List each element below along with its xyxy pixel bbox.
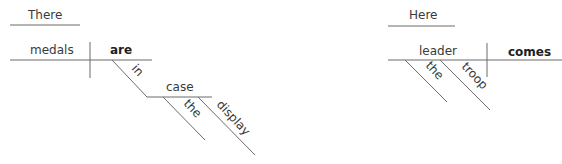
diagram-2: Here leader comes the troop — [388, 8, 562, 110]
object-word: case — [166, 80, 194, 94]
subject-word: leader — [419, 44, 457, 58]
verb-word: comes — [508, 45, 551, 59]
subject-word: medals — [30, 43, 74, 57]
modifier-word-2: troop — [459, 59, 491, 92]
diagram-1: There medals are in case the display — [10, 8, 255, 155]
verb-word: are — [110, 43, 132, 57]
modifier-word-1: the — [423, 58, 447, 82]
preposition-word: in — [129, 61, 147, 79]
modifier-word-2: display — [214, 97, 253, 138]
sentence-diagrams: There medals are in case the display Her… — [0, 0, 562, 164]
expletive-word: There — [27, 8, 62, 22]
expletive-word: Here — [409, 8, 437, 22]
